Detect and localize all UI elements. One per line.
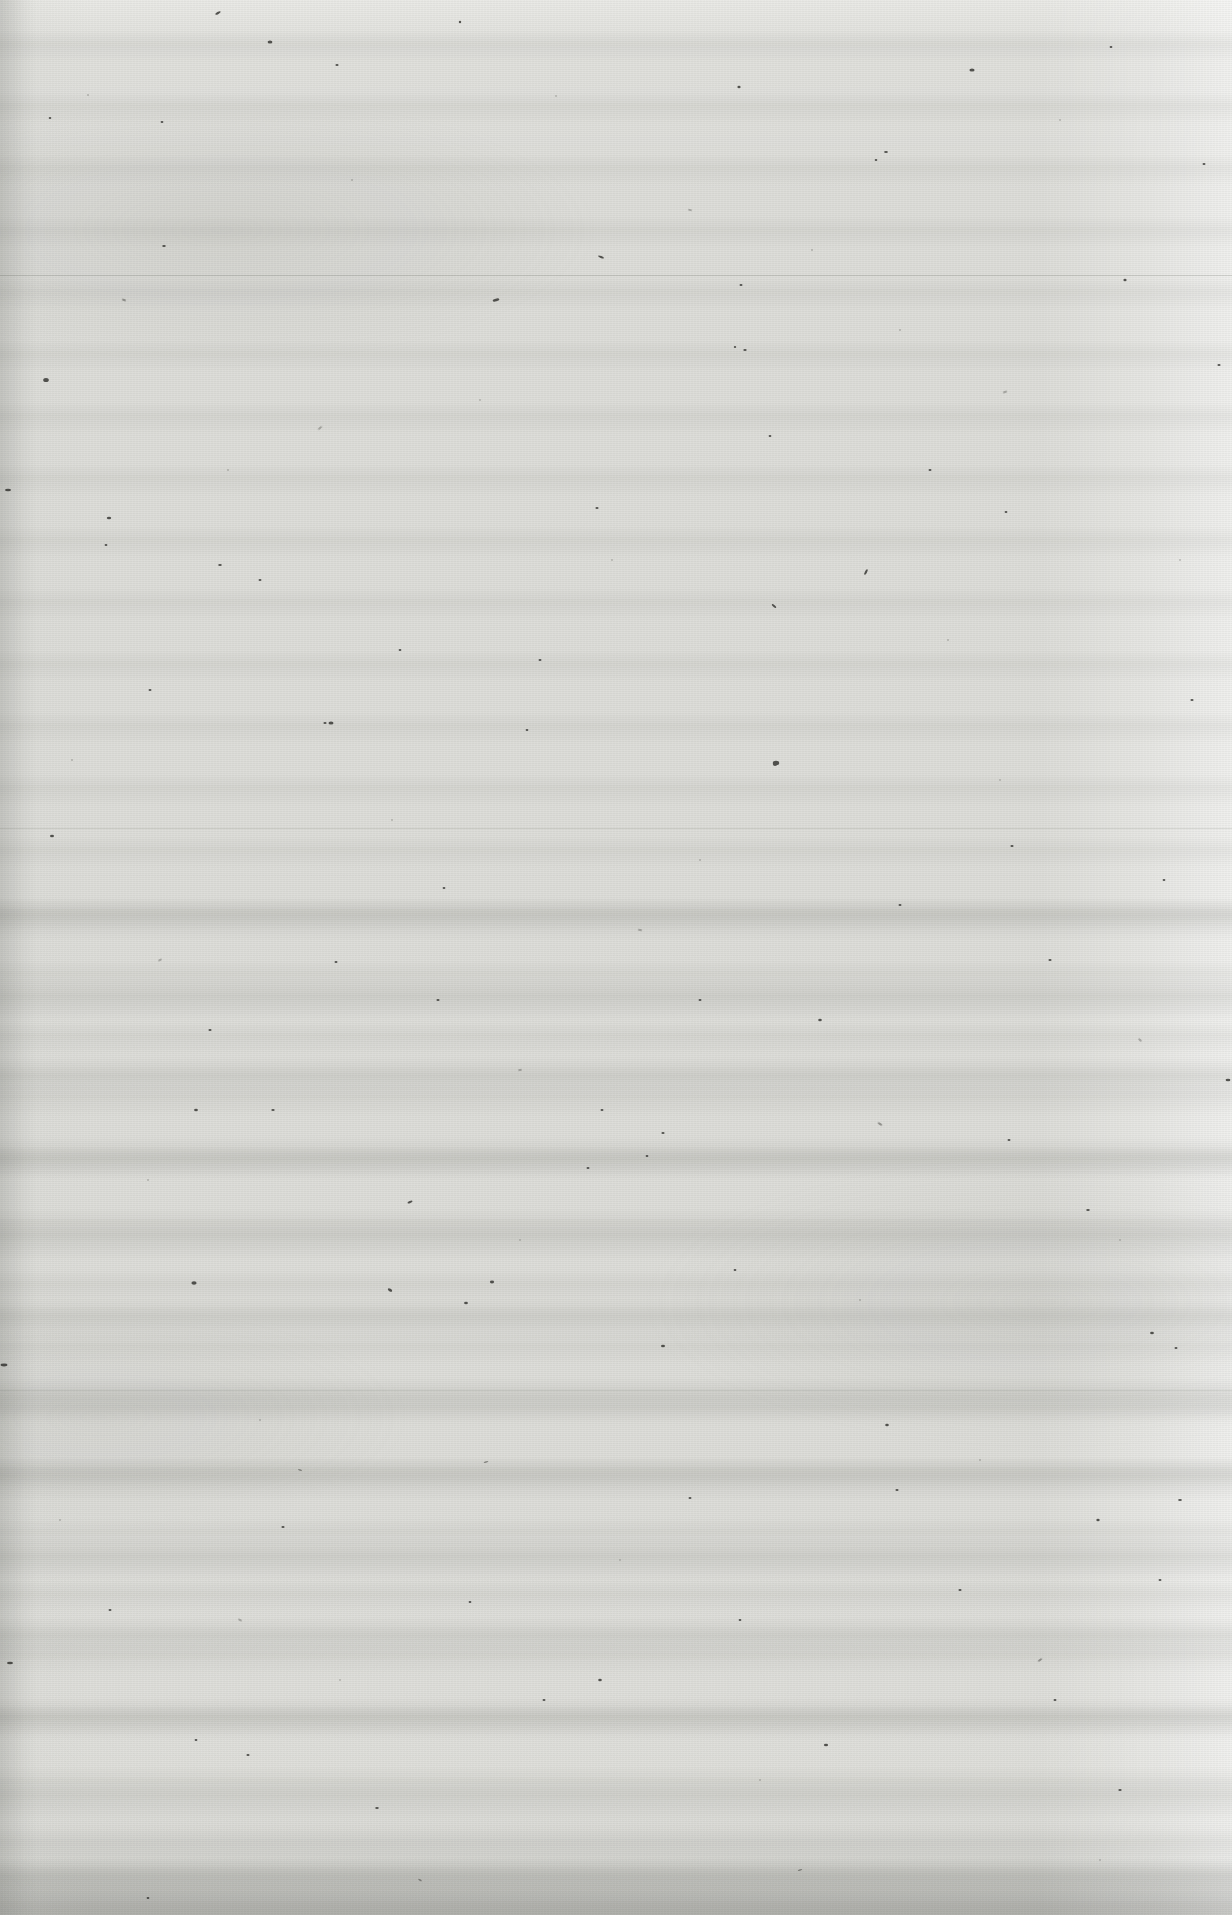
scanned-page: [0, 0, 1232, 1915]
scanner-banding-layer: [0, 0, 1232, 1915]
crease-line: [0, 1390, 1232, 1391]
paper-grain-layer: [0, 0, 1232, 1915]
crease-line: [0, 275, 1232, 276]
tonal-blotches-layer: [0, 0, 1232, 1915]
scanner-banding-strong-layer: [0, 860, 1232, 1915]
edge-vignette-layer: [0, 0, 1232, 1915]
crease-line: [0, 828, 1232, 829]
page-text: [0, 0, 1, 1]
foxing-specks-layer: [0, 0, 1232, 1915]
